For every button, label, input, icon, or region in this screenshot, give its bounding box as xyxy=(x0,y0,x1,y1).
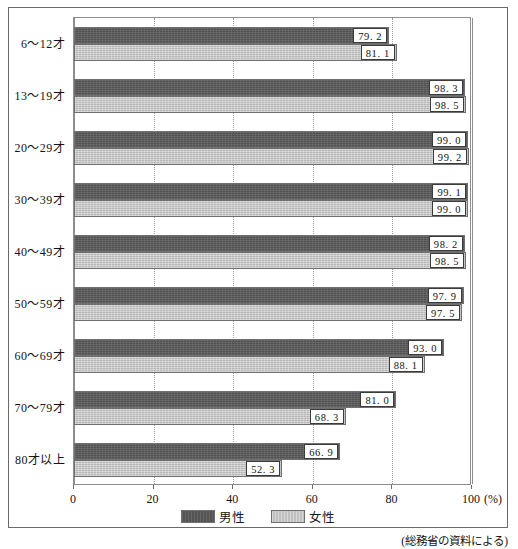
plot-area: 79. 281. 198. 398. 599. 099. 299. 199. 0… xyxy=(73,17,471,485)
bar-group: 81. 068. 3 xyxy=(74,391,470,427)
x-tick-label-0: 0 xyxy=(70,492,76,507)
x-tick-0 xyxy=(73,485,74,489)
x-tick-100 xyxy=(471,485,472,489)
x-tick-80 xyxy=(391,485,392,489)
bar-value-label-male: 66. 9 xyxy=(304,444,338,459)
bar-value-label-male: 93. 0 xyxy=(408,340,442,355)
bar-group: 79. 281. 1 xyxy=(74,27,470,63)
category-label: 13〜19才 xyxy=(0,86,65,104)
bar-male xyxy=(74,443,340,460)
bar-female xyxy=(74,200,468,217)
x-tick-label-80: 80 xyxy=(385,492,397,507)
bar-value-label-female: 98. 5 xyxy=(430,253,464,268)
legend-swatch-male-icon xyxy=(181,510,215,523)
legend-label-male: 男性 xyxy=(219,507,245,526)
bar-value-label-male: 81. 0 xyxy=(360,392,394,407)
x-tick-20 xyxy=(153,485,154,489)
bar-value-label-male: 79. 2 xyxy=(353,28,387,43)
bar-male xyxy=(74,339,444,356)
axis-unit-label: (%) xyxy=(484,492,502,507)
bar-value-label-female: 52. 3 xyxy=(246,461,280,476)
bar-value-label-male: 99. 1 xyxy=(432,184,466,199)
bar-female xyxy=(74,304,462,321)
bar-value-label-female: 81. 1 xyxy=(361,45,395,60)
bar-group: 97. 997. 5 xyxy=(74,287,470,323)
bar-value-label-female: 99. 2 xyxy=(433,149,467,164)
x-tick-40 xyxy=(232,485,233,489)
x-tick-60 xyxy=(312,485,313,489)
bar-female xyxy=(74,96,466,113)
bar-value-label-female: 88. 1 xyxy=(389,357,423,372)
bar-group: 99. 199. 0 xyxy=(74,183,470,219)
source-note: (総務省の資料による) xyxy=(401,532,508,548)
bar-male xyxy=(74,287,464,304)
gridline-100 xyxy=(472,18,473,484)
bar-value-label-male: 98. 2 xyxy=(429,236,463,251)
x-tick-label-60: 60 xyxy=(306,492,318,507)
bar-male xyxy=(74,131,468,148)
category-label: 60〜69才 xyxy=(0,346,65,364)
category-label: 40〜49才 xyxy=(0,242,65,260)
bar-value-label-male: 97. 9 xyxy=(428,288,462,303)
chart-legend: 男性 女性 xyxy=(9,507,507,526)
category-label: 50〜59才 xyxy=(0,294,65,312)
bar-value-label-female: 97. 5 xyxy=(426,305,460,320)
x-tick-label-20: 20 xyxy=(147,492,159,507)
x-tick-label-100: 100 xyxy=(462,492,480,507)
category-label: 80才以上 xyxy=(0,450,65,468)
category-label: 30〜39才 xyxy=(0,190,65,208)
bar-female xyxy=(74,356,425,373)
legend-item-female: 女性 xyxy=(271,507,335,526)
bar-male xyxy=(74,27,389,44)
bar-value-label-male: 99. 0 xyxy=(432,132,466,147)
bar-group: 98. 298. 5 xyxy=(74,235,470,271)
bar-value-label-male: 98. 3 xyxy=(429,80,463,95)
bar-female xyxy=(74,44,397,61)
category-label: 6〜12才 xyxy=(0,34,65,52)
bar-group: 98. 398. 5 xyxy=(74,79,470,115)
bar-male xyxy=(74,79,465,96)
bar-group: 99. 099. 2 xyxy=(74,131,470,167)
legend-swatch-female-icon xyxy=(271,510,305,523)
bar-male xyxy=(74,391,396,408)
clipped-header-strip xyxy=(0,0,518,5)
chart-frame: 79. 281. 198. 398. 599. 099. 299. 199. 0… xyxy=(8,7,508,528)
bar-female xyxy=(74,252,466,269)
bar-male xyxy=(74,183,468,200)
bar-value-label-female: 99. 0 xyxy=(432,201,466,216)
bar-group: 66. 952. 3 xyxy=(74,443,470,479)
bar-group: 93. 088. 1 xyxy=(74,339,470,375)
category-label: 70〜79才 xyxy=(0,398,65,416)
x-tick-label-40: 40 xyxy=(226,492,238,507)
bar-value-label-female: 68. 3 xyxy=(310,409,344,424)
category-label: 20〜29才 xyxy=(0,138,65,156)
bar-female xyxy=(74,148,469,165)
legend-label-female: 女性 xyxy=(309,507,335,526)
bar-male xyxy=(74,235,465,252)
bar-female xyxy=(74,408,346,425)
legend-item-male: 男性 xyxy=(181,507,245,526)
bar-value-label-female: 98. 5 xyxy=(430,97,464,112)
